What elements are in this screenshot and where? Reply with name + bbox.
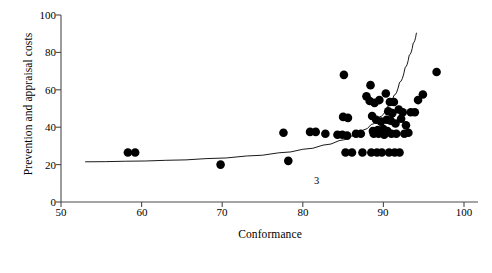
scatter-point (343, 131, 352, 140)
plot-canvas (0, 0, 492, 273)
scatter-point (395, 148, 404, 157)
scatter-point (404, 129, 413, 138)
scatter-point (375, 96, 384, 105)
scatter-point (216, 160, 225, 169)
scatter-point (390, 98, 399, 107)
scatter-point (131, 148, 140, 157)
scatter-point (358, 148, 367, 157)
scatter-point (411, 108, 420, 117)
scatter-point (392, 129, 401, 138)
scatter-points-group (124, 68, 441, 169)
scatter-point (366, 81, 375, 90)
scatter-point (382, 89, 391, 98)
x-axis-ticks (61, 202, 464, 207)
scatter-point (348, 148, 357, 157)
scatter-point (344, 114, 353, 123)
scatter-chart-figure: Prevention and appraisal costs 100 80 60… (0, 0, 492, 273)
scatter-point (340, 71, 349, 80)
y-axis-ticks (56, 15, 61, 202)
scatter-point (402, 121, 411, 130)
scatter-point (311, 128, 320, 137)
scatter-point (357, 129, 366, 138)
scatter-point (419, 90, 428, 99)
scatter-point (279, 129, 288, 138)
scatter-point (432, 68, 441, 77)
scatter-point (284, 157, 293, 166)
scatter-point (321, 129, 330, 138)
